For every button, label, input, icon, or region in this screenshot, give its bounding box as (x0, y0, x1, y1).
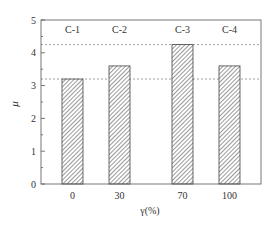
chart: C-10C-230C-370C-4100012345μγ(%) (0, 0, 277, 228)
x-tick-label: 30 (115, 190, 125, 201)
y-tick-label: 0 (31, 179, 36, 190)
y-tick-label: 2 (31, 113, 36, 124)
bar-label: C-2 (112, 24, 127, 35)
bars (62, 45, 240, 184)
bar-label: C-1 (65, 24, 80, 35)
bar-c-3 (172, 45, 193, 184)
y-tick-label: 1 (31, 146, 36, 157)
bar-c-1 (62, 79, 83, 184)
bar-label: C-3 (175, 24, 190, 35)
bar-c-4 (219, 66, 240, 184)
y-axis-title: μ (8, 101, 20, 108)
x-tick-label: 0 (70, 190, 75, 201)
x-tick-label: 70 (178, 190, 188, 201)
y-tick-label: 4 (31, 47, 36, 58)
x-axis-title: γ(%) (139, 205, 159, 217)
y-tick-label: 5 (31, 15, 36, 26)
y-tick-label: 3 (31, 80, 36, 91)
bar-c-2 (109, 66, 130, 184)
x-tick-label: 100 (222, 190, 237, 201)
bar-label: C-4 (222, 24, 237, 35)
